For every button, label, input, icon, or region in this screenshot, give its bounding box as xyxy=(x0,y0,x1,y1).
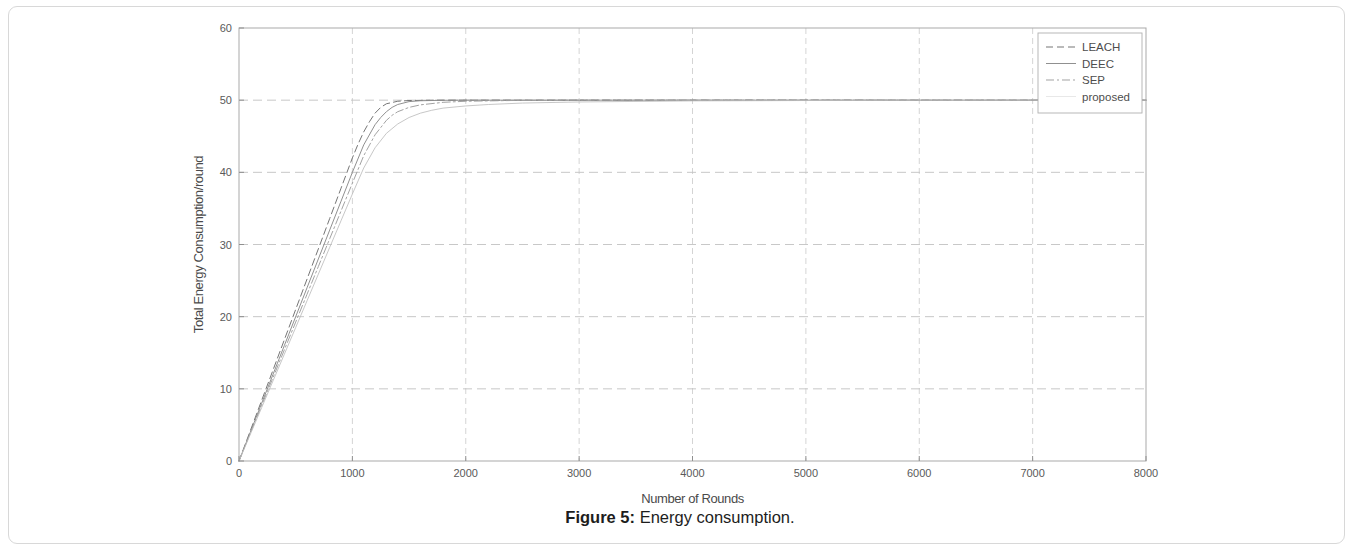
figure-caption: Figure 5: Energy consumption. xyxy=(0,508,1360,527)
y-tick-label: 20 xyxy=(220,311,232,323)
legend-label-deec: DEEC xyxy=(1082,58,1114,70)
x-tick-labels: 010002000300040005000600070008000 xyxy=(236,467,1158,479)
chart-legend: LEACHDEECSEPproposed xyxy=(1038,33,1142,113)
legend-label-sep: SEP xyxy=(1082,74,1105,86)
x-tick-label: 0 xyxy=(236,467,242,479)
gridlines xyxy=(239,28,1146,461)
x-tick-label: 5000 xyxy=(794,467,818,479)
x-tick-label: 4000 xyxy=(680,467,704,479)
x-tick-label: 1000 xyxy=(340,467,364,479)
y-tick-label: 50 xyxy=(220,94,232,106)
figure-caption-text: Energy consumption. xyxy=(640,508,795,526)
energy-consumption-chart: 010002000300040005000600070008000 010203… xyxy=(190,14,1170,504)
x-axis-title: Number of Rounds xyxy=(641,491,745,504)
y-axis-title: Total Energy Consumption/round xyxy=(191,156,206,334)
legend-label-leach: LEACH xyxy=(1082,41,1120,53)
y-tick-label: 40 xyxy=(220,166,232,178)
x-tick-label: 6000 xyxy=(907,467,931,479)
y-tick-label: 60 xyxy=(220,22,232,34)
figure-caption-label: Figure 5: xyxy=(565,508,635,526)
legend-label-proposed: proposed xyxy=(1082,91,1130,103)
y-tick-label: 0 xyxy=(226,455,232,467)
chart-svg: 010002000300040005000600070008000 010203… xyxy=(190,14,1170,504)
y-tick-labels: 0102030405060 xyxy=(220,22,232,467)
x-tick-label: 2000 xyxy=(454,467,478,479)
y-tick-label: 30 xyxy=(220,239,232,251)
y-tick-label: 10 xyxy=(220,383,232,395)
x-tick-label: 7000 xyxy=(1020,467,1044,479)
x-tick-label: 3000 xyxy=(567,467,591,479)
x-tick-label: 8000 xyxy=(1134,467,1158,479)
figure-block: 010002000300040005000600070008000 010203… xyxy=(0,0,1360,550)
